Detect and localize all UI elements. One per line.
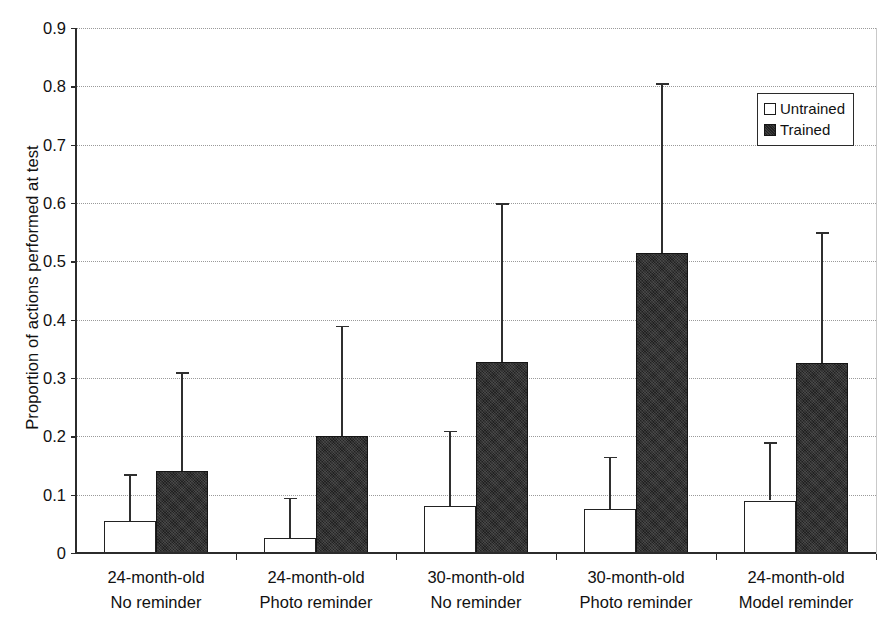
bar-trained-group-3 [476,362,528,553]
error-bar-cap [604,457,617,459]
x-label-line-2: No reminder [76,590,236,615]
x-axis-label-group-1: 24-month-oldNo reminder [76,565,236,615]
error-bar-line [609,457,610,510]
x-axis-label-group-2: 24-month-oldPhoto reminder [236,565,396,615]
y-axis-title: Proportion of actions performed at test [23,78,42,498]
gridline [76,145,876,146]
bar-chart: Proportion of actions performed at test … [0,0,890,625]
x-label-line-1: 24-month-old [236,565,396,590]
error-bar-line [129,474,130,521]
filled-square-icon [764,124,776,136]
y-tick-label: 0.4 [43,310,66,329]
x-label-line-2: No reminder [396,590,556,615]
error-bar-line [661,83,662,252]
y-tick-label: 0.1 [43,485,66,504]
error-bar-line [449,431,450,507]
plot-area: 00.10.20.30.40.50.60.70.80.9 [76,28,876,553]
error-bar-line [769,442,770,500]
x-label-line-1: 24-month-old [76,565,236,590]
legend-label: Untrained [780,100,845,117]
y-tick-label: 0 [57,544,66,563]
x-axis-label-group-4: 30-month-oldPhoto reminder [556,565,716,615]
error-bar-cap [176,372,189,374]
error-bar-cap [284,498,297,500]
x-axis-line [75,552,876,554]
error-bar-cap [444,431,457,433]
bar-trained-group-5 [796,363,848,553]
x-axis-label-group-3: 30-month-oldNo reminder [396,565,556,615]
y-tick-label: 0.3 [43,369,66,388]
error-bar-line [289,498,290,539]
error-bar-cap [496,203,509,205]
x-axis-label-group-5: 24-month-oldModel reminder [716,565,876,615]
gridline [76,86,876,87]
error-bar-cap [656,83,669,85]
error-bar-line [341,326,342,437]
bar-untrained-group-1 [104,521,156,553]
y-tick-label: 0.7 [43,135,66,154]
x-tick-mark [236,553,237,560]
x-tick-mark [716,553,717,560]
x-tick-mark [396,553,397,560]
bar-trained-group-2 [316,436,368,553]
y-tick-label: 0.9 [43,19,66,38]
legend-item-untrained: Untrained [764,98,845,119]
plot-right-edge [876,28,877,554]
x-label-line-1: 30-month-old [556,565,716,590]
gridline [76,261,876,262]
y-tick-label: 0.2 [43,427,66,446]
y-tick-label: 0.5 [43,252,66,271]
x-label-line-2: Photo reminder [236,590,396,615]
gridline [76,203,876,204]
legend: UntrainedTrained [757,93,854,146]
gridline [76,320,876,321]
legend-label: Trained [780,121,830,138]
bar-trained-group-4 [636,253,688,553]
x-tick-mark [876,553,877,560]
x-label-line-2: Photo reminder [556,590,716,615]
legend-item-trained: Trained [764,119,845,140]
bar-untrained-group-2 [264,538,316,553]
error-bar-cap [124,474,137,476]
hollow-square-icon [764,103,776,115]
x-label-line-1: 24-month-old [716,565,876,590]
error-bar-line [181,372,182,471]
bar-untrained-group-3 [424,506,476,553]
error-bar-cap [764,442,777,444]
gridline [76,28,876,29]
bar-trained-group-1 [156,471,208,553]
error-bar-line [821,232,822,363]
x-tick-mark [556,553,557,560]
bar-untrained-group-4 [584,509,636,553]
bar-untrained-group-5 [744,501,796,554]
y-axis-line [75,28,77,553]
error-bar-cap [336,326,349,328]
error-bar-cap [816,232,829,234]
error-bar-line [501,203,502,362]
x-label-line-1: 30-month-old [396,565,556,590]
y-tick-label: 0.6 [43,194,66,213]
x-label-line-2: Model reminder [716,590,876,615]
y-tick-label: 0.8 [43,77,66,96]
